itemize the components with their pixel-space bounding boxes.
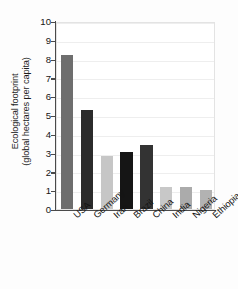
y-axis-tickmark	[51, 172, 55, 173]
x-axis-category-label: China	[150, 212, 157, 220]
y-axis-tick-label: 4	[33, 130, 51, 140]
x-axis-category-label: Iran	[111, 212, 118, 220]
y-axis-label-line1: Ecological footprint	[10, 74, 20, 150]
bar	[81, 110, 93, 209]
x-axis-category-label: Nigeria	[190, 212, 197, 220]
bar-series	[57, 23, 214, 209]
y-axis-tickmark	[51, 97, 55, 98]
y-axis-tick-label: 9	[33, 36, 51, 46]
bar	[61, 55, 73, 209]
x-axis-category-label: USA	[71, 212, 78, 220]
y-axis-tick-label: 0	[33, 205, 51, 215]
x-axis-category-label: Germany	[91, 212, 98, 220]
y-axis-tickmark	[51, 210, 55, 211]
plot-area	[56, 22, 215, 210]
x-axis-category-labels: USAGermanyIranBrazilChinaIndiaNigeriaEth…	[56, 212, 215, 289]
y-axis-tick-label: 10	[33, 17, 51, 27]
y-axis-tickmark	[51, 116, 55, 117]
y-axis-line	[55, 21, 56, 211]
chart-figure: Ecological footprint (global hectares pe…	[0, 0, 238, 289]
y-axis-tick-labels: 109876543210	[29, 0, 51, 289]
y-axis-tick-label: 3	[33, 149, 51, 159]
y-axis-tick-label: 6	[33, 92, 51, 102]
y-axis-tickmark	[51, 135, 55, 136]
y-axis-tick-label: 1	[33, 186, 51, 196]
y-axis-tickmark	[51, 191, 55, 192]
y-axis-tickmark	[51, 60, 55, 61]
x-axis-category-label: Ethiopia	[210, 212, 217, 220]
x-axis-category-label: Brazil	[131, 212, 138, 220]
x-axis-category-label: India	[170, 212, 177, 220]
y-axis-tickmark	[51, 154, 55, 155]
y-axis-tickmark	[51, 78, 55, 79]
y-axis-tick-label: 8	[33, 55, 51, 65]
y-axis-tick-label: 5	[33, 111, 51, 121]
y-axis-tick-label: 2	[33, 168, 51, 178]
y-axis-tick-label: 7	[33, 74, 51, 84]
y-axis-tickmark	[51, 41, 55, 42]
y-axis-tickmark	[51, 22, 55, 23]
